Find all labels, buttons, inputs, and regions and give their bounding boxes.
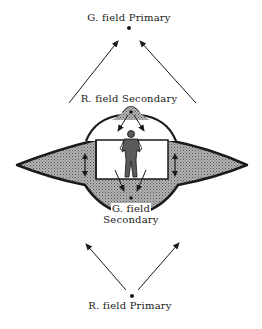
r-field-primary-point: [130, 294, 134, 298]
diagram-canvas: [0, 0, 262, 329]
label-g-field-primary: G. field Primary: [87, 12, 170, 23]
label-r-field-primary: R. field Primary: [88, 300, 171, 311]
g-field-primary-point: [127, 26, 131, 30]
g-field-secondary-point: [129, 196, 133, 200]
arrow-bottom-left-icon: [86, 244, 126, 290]
label-g-field-secondary-1: G. field: [111, 203, 151, 214]
field-diagram: G. field Primary R. field Secondary G. f…: [0, 0, 262, 329]
label-r-field-secondary: R. field Secondary: [81, 93, 178, 104]
label-g-field-secondary-2: Secondary: [103, 214, 158, 225]
arrow-bottom-right-icon: [138, 243, 179, 290]
